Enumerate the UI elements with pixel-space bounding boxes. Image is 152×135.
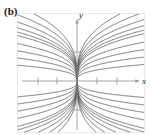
curve: [77, 81, 144, 97]
curve: [77, 65, 144, 81]
curve: [77, 81, 96, 132]
curve: [77, 14, 120, 81]
figure-panel: (b) x y: [0, 0, 152, 135]
curve: [34, 14, 77, 81]
y-axis-label: y: [78, 10, 83, 20]
curve: [58, 81, 77, 132]
curve: [18, 65, 77, 81]
plot-canvas: x y: [0, 0, 152, 135]
x-axis-label: x: [141, 76, 146, 86]
curve: [18, 81, 77, 97]
curve-family: [18, 14, 144, 132]
